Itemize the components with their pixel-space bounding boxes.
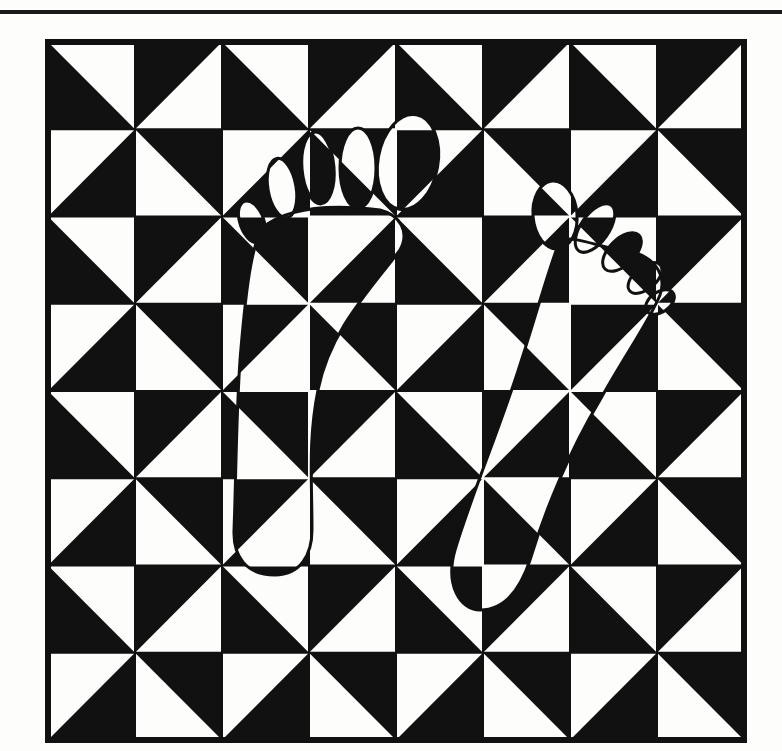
inverted-grid-in-footprints [48,42,744,740]
pinwheel-footprints-artwork [0,0,782,751]
